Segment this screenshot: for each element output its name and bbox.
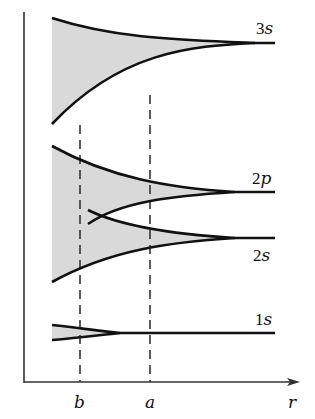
label-2p: 2p [252,168,272,188]
label-1s: 1s [255,309,273,329]
label-3s: 3s [256,18,274,38]
x-axis-label: r [288,392,297,412]
energy-band-diagram: 3s 2p 2s 1s b a r [0,0,315,419]
band-3s-fill [52,18,255,124]
tick-label-b: b [74,392,85,412]
label-2s: 2s [253,245,271,265]
tick-label-a: a [145,392,155,412]
